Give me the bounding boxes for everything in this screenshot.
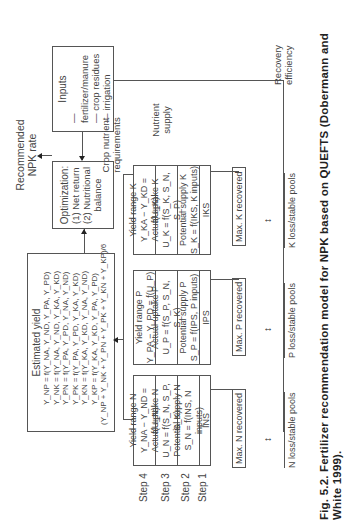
rotated-diagram-canvas: Recommended NPK rate Inputs — fertilizer… bbox=[0, 0, 360, 530]
yield-range-arrow-icon bbox=[113, 337, 118, 343]
potential-supply-n-cell: Potential supply N S_N = f(INS, N inputs… bbox=[178, 376, 200, 465]
max-k-recovered-box: Max. K recovered bbox=[232, 167, 246, 246]
recovery-efficiency-brace: Recovery efficiency bbox=[272, 25, 294, 85]
potential-supply-p-cell: Potential supply P S_P = f(IPS, P inputs… bbox=[178, 271, 200, 364]
max-p-to-supply-line bbox=[211, 279, 239, 280]
column-n: Yield range N Y_NA − Y_ND = f(U_N) Actua… bbox=[133, 375, 211, 466]
step-4-label: Step 4 bbox=[138, 473, 149, 502]
column-k: Yield range K Y_KA − Y_KD = f(U_K) Actua… bbox=[133, 165, 211, 255]
max-p-recovered-box: Max. P recovered bbox=[232, 278, 246, 356]
estimated-yield-box: Estimated yield Y_NP = f(Y_NA, Y_ND, Y_P… bbox=[27, 253, 115, 432]
iks-cell: IKS bbox=[200, 166, 212, 254]
max-n-to-supply-line bbox=[211, 389, 239, 390]
max-k-to-supply-line bbox=[211, 171, 239, 172]
inputs-to-recovery-line bbox=[114, 80, 284, 81]
n-loss-stable-pools-label: N loss/stable pools bbox=[284, 392, 297, 468]
p-loss-stable-pools-label: P loss/stable pools bbox=[284, 283, 297, 358]
output-arrow-icon bbox=[37, 153, 42, 159]
step-2-label: Step 2 bbox=[180, 473, 191, 502]
crop-nutrient-requirements-brace: Crop nutrient requirements bbox=[100, 110, 122, 180]
step-3-label: Step 3 bbox=[160, 473, 171, 502]
figure-caption: Fig. 5.2. Fertilizer recommendation mode… bbox=[318, 5, 344, 520]
ips-cell: IPS bbox=[200, 271, 212, 364]
column-p: Yield range P Y_PA − Y_PD = f(U_P) Actua… bbox=[133, 270, 211, 365]
k-exchange-arrow-icon: ↕ bbox=[262, 218, 273, 223]
max-n-recovered-box: Max. N recovered bbox=[232, 389, 246, 468]
recommended-npk-rate-label: Recommended NPK rate bbox=[14, 115, 38, 195]
recovery-vertical-line bbox=[283, 81, 284, 432]
yield-arrow-icon bbox=[81, 229, 87, 234]
nutrient-supply-brace: Nutrient supply bbox=[150, 95, 172, 145]
yield-range-bracket-line bbox=[123, 175, 124, 420]
potential-supply-k-cell: Potential supply K S_K = f(IKS, K inputs… bbox=[178, 166, 200, 254]
p-exchange-arrow-icon: ↕ bbox=[262, 327, 273, 332]
n-exchange-arrow-icon: ↕ bbox=[262, 437, 273, 442]
step-1-label: Step 1 bbox=[197, 473, 208, 502]
actual-uptake-k-cell: Actual uptake K U_K = f(S_K, S_N, S_P) bbox=[156, 166, 178, 254]
actual-uptake-p-cell: Actual uptake P U_P = f(S_P, S_N, S_K) bbox=[156, 271, 178, 364]
k-loss-stable-pools-label: K loss/stable pools bbox=[284, 173, 297, 248]
